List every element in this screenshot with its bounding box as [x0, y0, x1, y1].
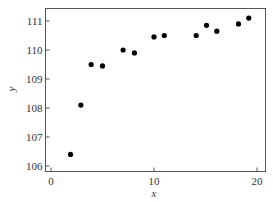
data-point	[194, 33, 199, 38]
y-tick-label: 110	[26, 44, 43, 56]
x-axis-ticks: 01020	[48, 168, 263, 187]
y-tick-label: 108	[26, 102, 43, 114]
data-point	[204, 23, 209, 28]
data-point	[78, 103, 83, 108]
data-point	[89, 62, 94, 67]
x-axis-label: x	[151, 187, 157, 199]
data-point	[68, 152, 73, 157]
y-tick-label: 106	[26, 160, 43, 172]
x-tick-label: 10	[149, 175, 161, 187]
scatter-chart: 01020 106107108109110111 x y	[0, 0, 273, 202]
y-tick-label: 107	[26, 131, 43, 143]
x-tick-label: 0	[48, 175, 54, 187]
y-tick-label: 111	[27, 15, 43, 27]
data-point	[121, 47, 126, 52]
plot-frame	[46, 9, 266, 172]
data-point	[214, 29, 219, 34]
data-point	[236, 21, 241, 26]
data-point	[151, 34, 156, 39]
data-point	[132, 50, 137, 55]
scatter-points	[68, 16, 251, 157]
y-tick-label: 109	[26, 73, 43, 85]
y-axis-label: y	[5, 86, 17, 92]
data-point	[162, 33, 167, 38]
data-point	[100, 63, 105, 68]
x-tick-label: 20	[252, 175, 264, 187]
data-point	[246, 16, 251, 21]
